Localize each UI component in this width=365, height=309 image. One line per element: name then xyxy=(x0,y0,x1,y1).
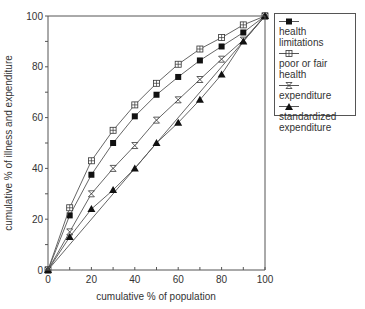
legend-item-expenditure: expenditure xyxy=(279,81,352,101)
y-tick-label: 40 xyxy=(32,163,44,174)
filled-square-marker-icon xyxy=(279,17,299,26)
y-axis-title: cumulative % of illness and expenditure xyxy=(3,55,14,231)
x-axis-title: cumulative % of population xyxy=(96,291,216,302)
x-tick-label: 80 xyxy=(216,274,228,285)
legend-label: standardized expenditure xyxy=(279,111,352,133)
y-tick-label: 0 xyxy=(37,265,43,276)
legend-label: poor or fair health xyxy=(279,58,352,80)
x-tick-label: 0 xyxy=(45,274,51,285)
legend-item-health-limitations: health limitations xyxy=(279,17,352,48)
x-tick-label: 40 xyxy=(129,274,141,285)
x-tick-label: 100 xyxy=(257,274,274,285)
y-tick-label: 100 xyxy=(26,11,43,22)
legend-item-standardized-expenditure: standardized expenditure xyxy=(279,102,352,133)
y-tick-label: 20 xyxy=(32,214,44,225)
x-tick-label: 60 xyxy=(173,274,185,285)
y-tick-label: 60 xyxy=(32,112,44,123)
legend-label: health limitations xyxy=(279,26,352,48)
legend-label: expenditure xyxy=(279,90,352,101)
filled-triangle-marker-icon xyxy=(279,102,299,111)
y-tick-label: 80 xyxy=(32,61,44,72)
legend: health limitations poor or fair health e… xyxy=(274,13,356,116)
legend-item-poor-or-fair-health: poor or fair health xyxy=(279,49,352,80)
x-tick-label: 20 xyxy=(86,274,98,285)
open-square-cross-marker-icon xyxy=(279,49,299,58)
hourglass-marker-icon xyxy=(279,81,299,90)
plot-area xyxy=(44,12,269,273)
